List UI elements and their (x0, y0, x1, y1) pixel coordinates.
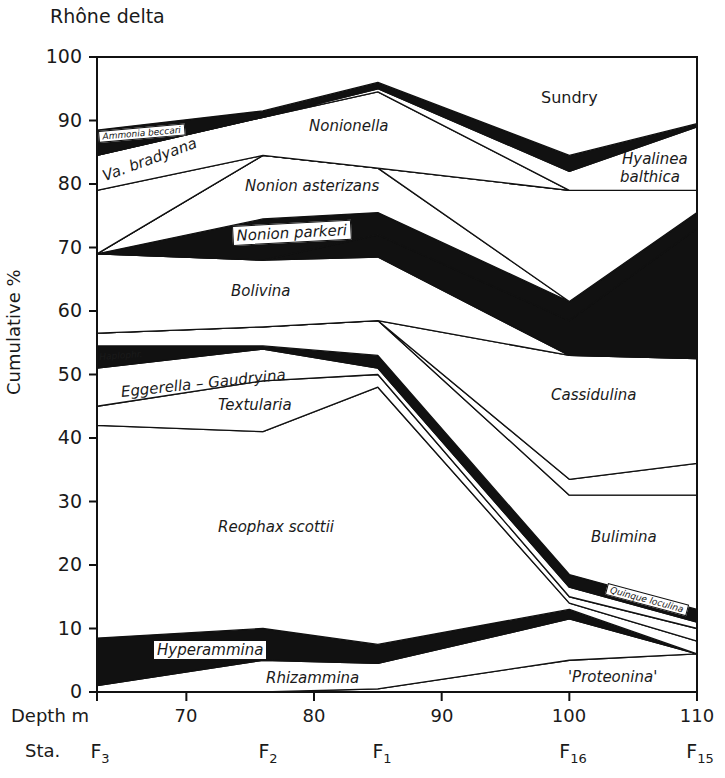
label-textularia: Textularia (218, 396, 292, 414)
station-f15: F15 (686, 740, 713, 766)
x-tick: 70 (175, 705, 198, 726)
label-nonionella: Nonionella (309, 117, 389, 135)
x-tick: 90 (431, 705, 454, 726)
x-axis-label: Depth m (11, 705, 89, 726)
label-nonion-asterizans: Nonion asterizans (245, 177, 379, 195)
station-f16: F16 (559, 740, 586, 766)
station-f1: F1 (372, 740, 391, 766)
y-tick: 10 (38, 617, 82, 639)
label-bolivina: Bolivina (231, 282, 291, 300)
y-tick: 50 (38, 363, 82, 385)
x-tick: 110 (680, 705, 714, 726)
x-tick: 100 (552, 705, 586, 726)
label-reophax-scottii: Reophax scottii (218, 518, 334, 536)
y-tick: 40 (38, 426, 82, 448)
y-tick: 20 (38, 553, 82, 575)
label-cassidulina: Cassidulina (551, 386, 637, 404)
label-hyperammina: Hyperammina (153, 640, 267, 660)
label-proteonina: 'Proteonina' (568, 668, 657, 686)
label-sundry: Sundry (541, 88, 598, 107)
y-tick: 0 (38, 680, 82, 702)
station-f2: F2 (258, 740, 277, 766)
x-tick: 80 (303, 705, 326, 726)
station-f3: F3 (90, 740, 109, 766)
y-tick: 80 (38, 172, 82, 194)
y-axis-label: Cumulative % (3, 269, 24, 395)
y-tick: 90 (38, 109, 82, 131)
label-balthica: balthica (620, 168, 680, 186)
chart-title: Rhône delta (50, 5, 165, 27)
label-hyalinea: Hyalinea (622, 150, 688, 168)
y-tick: 30 (38, 490, 82, 512)
station-label: Sta. (25, 740, 60, 761)
y-tick: 70 (38, 236, 82, 258)
label-bulimina: Bulimina (591, 528, 657, 546)
y-tick: 60 (38, 299, 82, 321)
label-rhizammina: Rhizammina (266, 669, 359, 687)
y-tick: 100 (38, 45, 82, 67)
